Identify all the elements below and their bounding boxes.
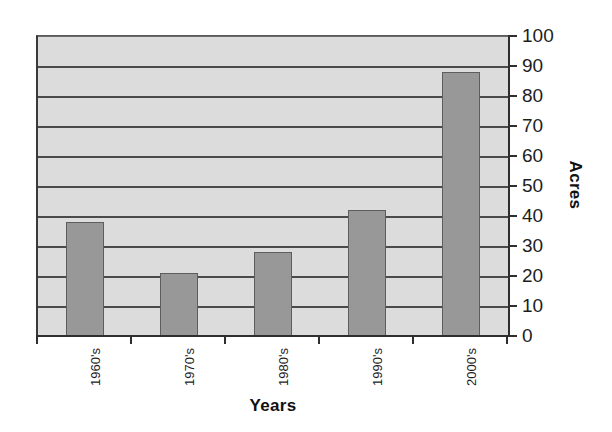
y-axis-tick: [508, 65, 517, 67]
y-axis-tick-label: 20: [522, 266, 543, 285]
y-axis-tick: [508, 275, 517, 277]
y-axis-tick: [508, 155, 517, 157]
x-axis-category-label: 1980's: [276, 348, 291, 386]
x-axis-title: Years: [36, 396, 510, 416]
bar-chart-figure: 0102030405060708090100 1960's1970's1980'…: [0, 0, 612, 432]
x-axis-tick: [318, 335, 320, 344]
x-axis-category-label: 1990's: [370, 348, 385, 386]
bar: [442, 72, 480, 336]
bar: [66, 222, 104, 336]
x-axis-tick: [506, 335, 508, 344]
bar: [254, 252, 292, 336]
y-axis-tick: [508, 215, 517, 217]
x-axis-tick: [36, 335, 38, 344]
y-axis-tick-label: 90: [522, 56, 543, 75]
y-axis-tick: [508, 125, 517, 127]
y-axis-tick: [508, 95, 517, 97]
y-axis-tick-label: 70: [522, 116, 543, 135]
y-axis-tick: [508, 35, 517, 37]
category-axis-line: [36, 335, 510, 337]
y-axis-tick: [508, 185, 517, 187]
plot-area: [36, 35, 508, 336]
x-axis-category-label: 1960's: [88, 348, 103, 386]
y-axis-tick: [508, 245, 517, 247]
y-axis-tick-label: 80: [522, 86, 543, 105]
x-axis-tick: [130, 335, 132, 344]
x-axis-category-label: 2000's: [464, 348, 479, 386]
y-axis-tick: [508, 335, 517, 337]
x-axis-tick: [412, 335, 414, 344]
bars-layer: [38, 36, 508, 336]
bar: [348, 210, 386, 336]
bar: [160, 273, 198, 336]
y-axis-tick-label: 0: [522, 326, 533, 345]
x-axis-tick: [224, 335, 226, 344]
y-axis-tick: [508, 305, 517, 307]
y-axis-tick-label: 40: [522, 206, 543, 225]
y-axis-title: Acres: [565, 161, 585, 210]
x-axis-category-label: 1970's: [182, 348, 197, 386]
y-axis-tick-label: 10: [522, 296, 543, 315]
y-axis-tick-label: 30: [522, 236, 543, 255]
y-axis-tick-label: 60: [522, 146, 543, 165]
y-axis-tick-label: 100: [522, 26, 554, 45]
y-axis-tick-label: 50: [522, 176, 543, 195]
